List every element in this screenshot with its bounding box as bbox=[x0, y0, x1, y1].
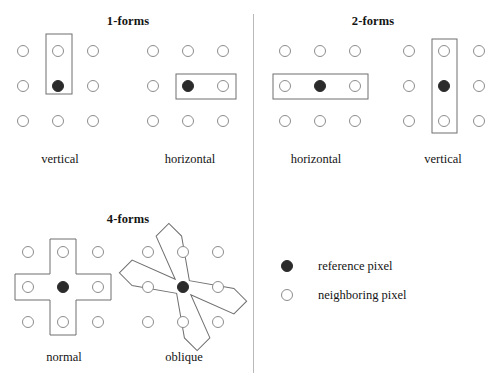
neighbor-node bbox=[23, 317, 34, 328]
grid-1forms-horizontal bbox=[148, 46, 237, 127]
filled-dot-icon bbox=[282, 261, 293, 272]
neighbor-node bbox=[143, 282, 154, 293]
neighbor-node bbox=[280, 116, 291, 127]
neighbor-node bbox=[18, 81, 29, 92]
reference-node bbox=[183, 81, 194, 92]
caption-2forms-vertical: vertical bbox=[424, 152, 461, 167]
neighbor-node bbox=[148, 46, 159, 57]
grid-2forms-horizontal bbox=[273, 46, 368, 127]
neighbor-node bbox=[315, 116, 326, 127]
neighbor-node bbox=[350, 46, 361, 57]
panel-title-1forms: 1-forms bbox=[107, 14, 149, 29]
grid-4forms-oblique bbox=[119, 223, 246, 350]
legend-label-reference-pixel: reference pixel bbox=[318, 259, 393, 274]
neighbor-node bbox=[93, 282, 104, 293]
neighbor-node bbox=[148, 116, 159, 127]
neighbor-node bbox=[53, 116, 64, 127]
grid-4forms-normal bbox=[15, 239, 111, 335]
caption-4forms-normal: normal bbox=[46, 350, 81, 365]
neighbor-node bbox=[213, 317, 224, 328]
neighbor-node bbox=[148, 81, 159, 92]
neighbor-node bbox=[93, 247, 104, 258]
neighbor-node bbox=[88, 46, 99, 57]
open-dot-icon bbox=[282, 290, 293, 301]
neighbor-node bbox=[143, 247, 154, 258]
neighbor-node bbox=[53, 46, 64, 57]
panel-title-4forms: 4-forms bbox=[107, 212, 149, 227]
panel-title-2forms: 2-forms bbox=[352, 14, 394, 29]
neighbor-node bbox=[350, 81, 361, 92]
caption-4forms-oblique: oblique bbox=[165, 350, 203, 365]
neighbor-node bbox=[218, 116, 229, 127]
reference-node bbox=[53, 81, 64, 92]
caption-1forms-vertical: vertical bbox=[41, 152, 78, 167]
neighbor-node bbox=[213, 247, 224, 258]
neighbor-node bbox=[315, 46, 326, 57]
neighbor-node bbox=[474, 46, 485, 57]
neighbor-node bbox=[404, 81, 415, 92]
neighbor-node bbox=[18, 116, 29, 127]
neighbor-node bbox=[88, 81, 99, 92]
reference-node bbox=[58, 282, 69, 293]
caption-1forms-horizontal: horizontal bbox=[165, 152, 216, 167]
diagram-canvas bbox=[0, 0, 496, 387]
neighbor-node bbox=[183, 116, 194, 127]
legend-label-neighboring-pixel: neighboring pixel bbox=[318, 288, 407, 303]
reference-node bbox=[439, 81, 450, 92]
neighbor-node bbox=[404, 116, 415, 127]
neighbor-node bbox=[213, 282, 224, 293]
grid-1forms-vertical bbox=[18, 34, 99, 127]
neighbor-node bbox=[178, 247, 189, 258]
legend-markers bbox=[282, 261, 293, 301]
neighbor-node bbox=[404, 46, 415, 57]
neighbor-node bbox=[88, 116, 99, 127]
caption-2forms-horizontal: horizontal bbox=[291, 152, 342, 167]
neighbor-node bbox=[280, 81, 291, 92]
reference-node bbox=[178, 282, 189, 293]
neighbor-node bbox=[350, 116, 361, 127]
neighbor-node bbox=[18, 46, 29, 57]
neighbor-node bbox=[58, 247, 69, 258]
neighbor-node bbox=[474, 116, 485, 127]
neighbor-node bbox=[218, 81, 229, 92]
neighbor-node bbox=[183, 46, 194, 57]
neighbor-node bbox=[474, 81, 485, 92]
neighbor-node bbox=[218, 46, 229, 57]
neighbor-node bbox=[23, 247, 34, 258]
neighbor-node bbox=[58, 317, 69, 328]
neighbor-node bbox=[280, 46, 291, 57]
reference-node bbox=[315, 81, 326, 92]
grid-2forms-vertical bbox=[404, 39, 485, 133]
neighbor-node bbox=[178, 317, 189, 328]
figure-root: 1-forms 2-forms 4-forms vertical horizon… bbox=[0, 0, 496, 387]
neighbor-node bbox=[439, 116, 450, 127]
neighbor-node bbox=[143, 317, 154, 328]
neighbor-node bbox=[439, 46, 450, 57]
neighbor-node bbox=[23, 282, 34, 293]
neighbor-node bbox=[93, 317, 104, 328]
